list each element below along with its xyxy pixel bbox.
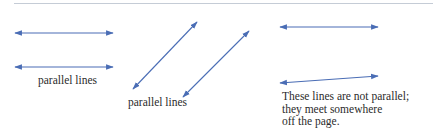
- double-arrow-line: [183, 31, 249, 97]
- left-parallel-pair: [15, 33, 113, 67]
- double-arrow-line: [133, 22, 197, 89]
- diagonal-parallel-pair: [133, 22, 249, 97]
- left-pair-label: parallel lines: [38, 74, 97, 86]
- diagonal-pair-label: parallel lines: [128, 96, 187, 108]
- double-arrow-line: [280, 76, 378, 83]
- note-line: These lines are not parallel;: [282, 90, 409, 103]
- non-parallel-note: These lines are not parallel; they meet …: [282, 90, 409, 128]
- note-line: they meet somewhere: [282, 103, 409, 116]
- note-line: off the page.: [282, 115, 409, 128]
- non-parallel-pair: [280, 27, 378, 83]
